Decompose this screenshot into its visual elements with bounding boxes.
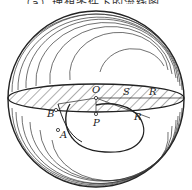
sphere-diagram: O S R P R B A xyxy=(0,0,192,190)
label-P: P xyxy=(92,117,100,128)
label-R-bottom: R xyxy=(133,111,142,122)
label-O: O xyxy=(92,84,100,95)
label-B: B xyxy=(46,108,54,119)
upper-shell-lines xyxy=(8,14,184,94)
label-A: A xyxy=(59,129,67,140)
label-S: S xyxy=(123,86,130,97)
label-R-top: R xyxy=(148,86,157,97)
